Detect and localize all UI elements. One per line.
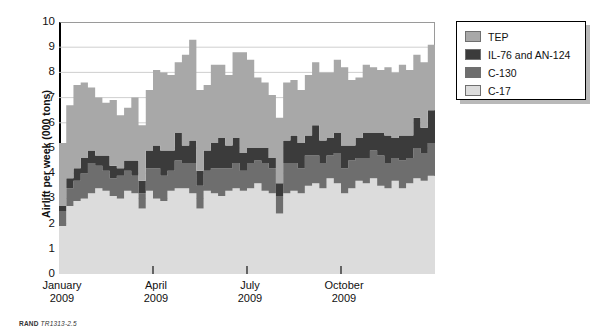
y-tick-label: 8 bbox=[11, 66, 55, 78]
x-tick-year: 2009 bbox=[304, 292, 384, 305]
legend-label: C-17 bbox=[488, 85, 511, 97]
legend-swatch bbox=[465, 31, 481, 42]
chart-legend: TEPIL-76 and AN-124C-130C-17 bbox=[456, 21, 586, 100]
x-tick-month: January bbox=[22, 279, 102, 292]
x-tick-label: April2009 bbox=[116, 279, 196, 304]
y-tick-label: 0 bbox=[11, 268, 55, 280]
x-tick-year: 2009 bbox=[116, 292, 196, 305]
stacked-area-chart bbox=[59, 22, 435, 274]
y-tick-label: 6 bbox=[11, 117, 55, 129]
x-tick-month: October bbox=[304, 279, 384, 292]
legend-label: C-130 bbox=[488, 67, 517, 79]
y-tick-label: 3 bbox=[11, 192, 55, 204]
x-tick-year: 2009 bbox=[210, 292, 290, 305]
legend-swatch bbox=[465, 49, 481, 60]
x-tick-year: 2009 bbox=[22, 292, 102, 305]
x-tick-label: October2009 bbox=[304, 279, 384, 304]
legend-swatch bbox=[465, 85, 481, 96]
x-tick-label: July2009 bbox=[210, 279, 290, 304]
x-tick-month: April bbox=[116, 279, 196, 292]
y-tick-label: 2 bbox=[11, 218, 55, 230]
y-tick-label: 7 bbox=[11, 92, 55, 104]
legend-label: IL-76 and AN-124 bbox=[488, 49, 570, 61]
legend-item[interactable]: C-17 bbox=[465, 82, 585, 99]
legend-label: TEP bbox=[488, 31, 508, 43]
y-tick-label: 9 bbox=[11, 41, 55, 53]
footer-figure-id: TR1313-2.5 bbox=[41, 320, 77, 327]
legend-item[interactable]: TEP bbox=[465, 28, 585, 45]
y-tick-label: 4 bbox=[11, 167, 55, 179]
legend-item[interactable]: C-130 bbox=[465, 64, 585, 81]
figure-container: Airlift per week (000 tons) 012345678910… bbox=[0, 0, 605, 335]
figure-footer: RAND TR1313-2.5 bbox=[19, 320, 77, 327]
y-tick-label: 1 bbox=[11, 243, 55, 255]
x-tick-label: January2009 bbox=[22, 279, 102, 304]
legend-swatch bbox=[465, 67, 481, 78]
x-tick-month: July bbox=[210, 279, 290, 292]
y-tick-label: 10 bbox=[11, 16, 55, 28]
y-tick-label: 5 bbox=[11, 142, 55, 154]
legend-item[interactable]: IL-76 and AN-124 bbox=[465, 46, 585, 63]
footer-rand-label: RAND bbox=[19, 320, 39, 327]
plot-area bbox=[59, 22, 435, 274]
